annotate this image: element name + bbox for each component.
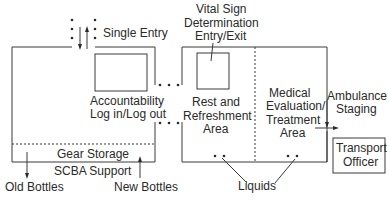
exit-arrow-head [78,44,82,50]
scba-support-label: SCBA Support [54,165,131,178]
transport-officer-label-2: Officer [343,156,378,169]
entry-dot [71,19,74,22]
connector-dot [159,84,162,87]
medical-label-4: Area [280,127,305,140]
rest-label-3: Area [203,123,228,136]
new-bottles-label: New Bottles [114,181,178,194]
left-room-wall-upper [95,47,155,85]
transport-officer-label-1: Transport [336,142,387,155]
liquids-dot [214,155,217,158]
vital-sign-pointer [211,43,213,61]
single-entry-label: Single Entry [103,27,168,40]
vital-sign-label-3: Entry/Exit [195,30,246,43]
medical-label-2: Evaluation/ [266,100,325,113]
ambulance-line-head [325,122,329,128]
old-bottles-arrow-head [25,173,29,179]
accountability-station [95,54,147,91]
vital-sign-label-1: Vital Sign [196,3,246,16]
old-bottles-label: Old Bottles [5,181,64,194]
vital-sign-station [197,53,229,89]
rest-label-1: Rest and [192,96,240,109]
accountability-label-2: Log in/Log out [90,108,166,121]
ambulance-arrow-head [333,126,339,130]
ambulance-staging-label-2: Staging [336,103,377,116]
new-bottles-arrow-head [138,156,142,162]
liquids-label: Liquids [238,180,276,193]
gear-storage-label: Gear Storage [57,148,129,161]
entry-arrow-head [85,26,89,32]
